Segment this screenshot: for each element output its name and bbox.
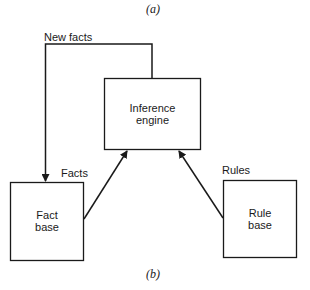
rules-arrow bbox=[179, 151, 223, 218]
new-facts-label: New facts bbox=[44, 31, 92, 43]
caption-b: (b) bbox=[146, 267, 160, 282]
diagram-canvas bbox=[0, 0, 310, 290]
rule-base-line1: Rule bbox=[223, 207, 297, 219]
inference-engine-label: Inference engine bbox=[104, 102, 201, 126]
facts-arrow bbox=[84, 151, 127, 219]
inference-engine-line1: Inference bbox=[104, 102, 201, 114]
fact-base-line1: Fact bbox=[10, 209, 84, 221]
rules-label: Rules bbox=[222, 164, 250, 176]
inference-engine-line2: engine bbox=[104, 114, 201, 126]
facts-label: Facts bbox=[61, 167, 88, 179]
fact-base-label: Fact base bbox=[10, 209, 84, 233]
rule-base-line2: base bbox=[223, 219, 297, 231]
rule-base-label: Rule base bbox=[223, 207, 297, 231]
fact-base-line2: base bbox=[10, 221, 84, 233]
